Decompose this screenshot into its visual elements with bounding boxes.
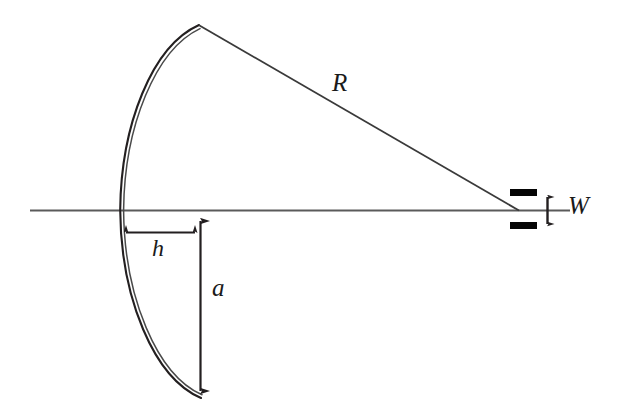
label-radius-R: R — [332, 70, 347, 95]
slit-bar-upper — [510, 189, 537, 196]
label-aperture-a: a — [212, 275, 225, 300]
label-slit-width-W: W — [568, 193, 589, 218]
radius-line — [200, 26, 520, 211]
slit-bar-lower — [510, 222, 537, 229]
mirror-arc — [120, 25, 202, 398]
label-sagitta-h: h — [152, 236, 164, 260]
optics-diagram — [0, 0, 626, 417]
figure-canvas: R h a W — [0, 0, 626, 417]
